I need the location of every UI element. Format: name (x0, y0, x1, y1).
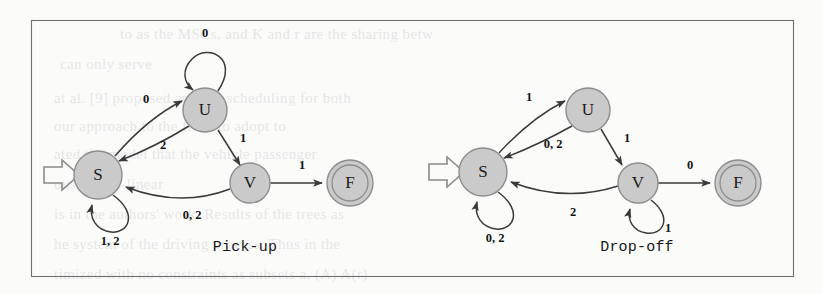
edge-label-dropoff-V-V: 1 (665, 221, 671, 235)
edge-dropoff-V-V-self (629, 200, 664, 233)
panel-caption-pick-up: Pick-up (213, 239, 277, 256)
state-label: U (582, 100, 594, 119)
edge-pickup-U-S (119, 126, 189, 161)
edge-label-pickup-U-U: 0 (202, 26, 208, 40)
edge-label-pickup-S-U: 0 (143, 92, 149, 106)
state-label: V (244, 173, 257, 192)
state-pickup-V[interactable]: V (230, 163, 270, 203)
panel-caption-drop-off: Drop-off (600, 239, 674, 256)
edge-pickup-V-S (126, 187, 230, 198)
panel-drop-off: S U V F 1 0, 2 1 2 0 1 0, 2 (429, 88, 761, 256)
automata-figure: S U V F 0 2 0 1 0, 2 1 1, 2 (0, 0, 823, 294)
edge-label-pickup-U-V: 1 (240, 131, 246, 145)
edge-dropoff-V-S (511, 182, 618, 194)
edge-label-pickup-V-S: 0, 2 (183, 208, 202, 222)
edge-dropoff-S-S-self (476, 192, 513, 229)
state-pickup-F[interactable]: F (327, 160, 373, 206)
edge-label-dropoff-S-S: 0, 2 (486, 231, 505, 245)
state-label: F (345, 173, 354, 192)
figure-border (32, 21, 794, 277)
edge-label-dropoff-V-F: 0 (687, 158, 693, 172)
panel-pick-up: S U V F 0 2 0 1 0, 2 1 1, 2 (44, 26, 373, 256)
edge-label-pickup-S-S: 1, 2 (101, 234, 120, 248)
state-label: F (733, 173, 742, 192)
edge-label-dropoff-U-S: 0, 2 (544, 137, 563, 151)
state-pickup-U[interactable]: U (183, 88, 227, 132)
figure-root: to as the MSCs, and K and r are the shar… (0, 0, 823, 294)
state-label: S (478, 162, 487, 181)
state-dropoff-U[interactable]: U (566, 88, 610, 132)
edge-dropoff-U-V (601, 129, 622, 165)
edge-label-pickup-V-F: 1 (299, 158, 305, 172)
edge-label-pickup-U-S: 2 (160, 138, 166, 152)
state-dropoff-S[interactable]: S (459, 148, 507, 196)
edge-label-dropoff-U-V: 1 (624, 131, 630, 145)
state-dropoff-F[interactable]: F (715, 160, 761, 206)
state-dropoff-V[interactable]: V (618, 163, 658, 203)
state-pickup-S[interactable]: S (74, 151, 122, 199)
state-label: V (632, 173, 645, 192)
edge-label-dropoff-S-U: 1 (526, 90, 532, 104)
edge-pickup-U-U-self (185, 53, 226, 91)
edge-pickup-S-S-self (91, 195, 128, 232)
state-label: S (93, 165, 102, 184)
edge-label-dropoff-V-S: 2 (570, 205, 576, 219)
state-label: U (199, 100, 211, 119)
edge-pickup-U-V (218, 130, 240, 165)
